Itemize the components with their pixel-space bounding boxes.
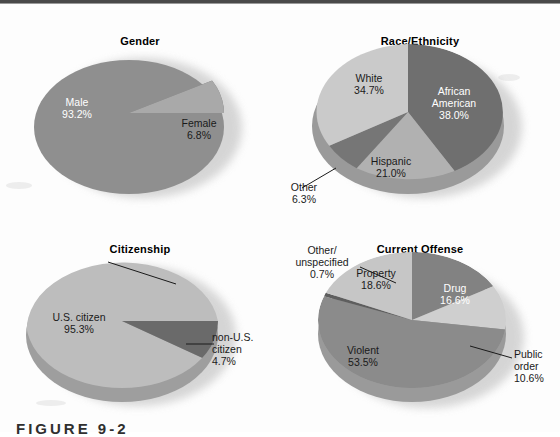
figure-caption: FIGURE 9-2 (16, 420, 129, 437)
